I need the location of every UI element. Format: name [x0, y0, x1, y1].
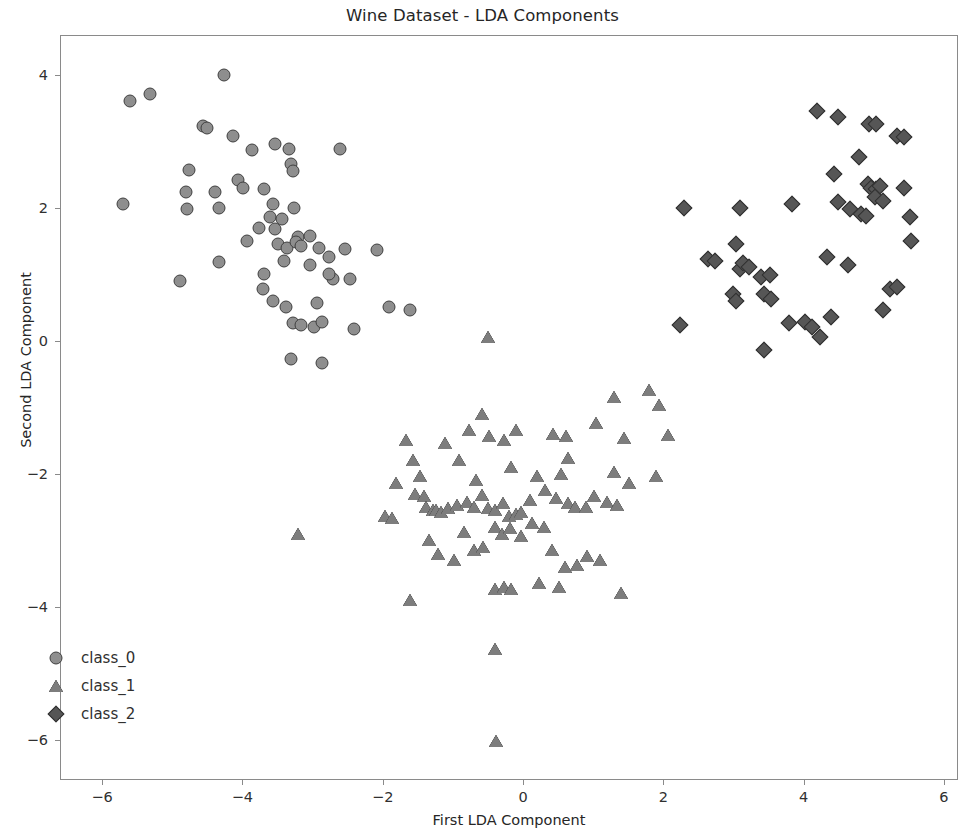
data-point-class_0 — [304, 229, 317, 242]
x-tick-label: 4 — [799, 789, 808, 805]
legend-item-class_2[interactable]: class_2 — [39, 700, 135, 728]
data-point-class_1 — [509, 424, 523, 436]
data-point-class_0 — [315, 316, 328, 329]
data-point-class_1 — [559, 430, 573, 442]
data-point-class_1 — [537, 521, 551, 533]
x-tick-mark — [944, 780, 945, 785]
data-point-class_1 — [476, 541, 490, 553]
data-point-class_1 — [497, 434, 511, 446]
data-point-class_0 — [181, 202, 194, 215]
x-tick-label: 6 — [939, 789, 948, 805]
data-point-class_0 — [240, 234, 253, 247]
data-point-class_0 — [212, 201, 225, 214]
data-point-class_1 — [642, 384, 656, 396]
x-tick-label: −6 — [91, 789, 112, 805]
x-axis-label: First LDA Component — [60, 812, 958, 828]
legend-item-label: class_0 — [73, 649, 135, 667]
data-point-class_1 — [452, 454, 466, 466]
y-tick-mark — [55, 474, 60, 475]
y-tick-mark — [55, 607, 60, 608]
data-point-class_0 — [266, 294, 279, 307]
data-point-class_0 — [283, 143, 296, 156]
data-point-class_1 — [561, 452, 575, 464]
x-tick-label: −4 — [232, 789, 253, 805]
data-point-class_0 — [257, 282, 270, 295]
y-tick-label: 2 — [8, 200, 48, 216]
data-point-class_0 — [212, 256, 225, 269]
legend-item-label: class_2 — [73, 705, 135, 723]
data-point-class_2 — [732, 199, 749, 216]
x-tick-label: 0 — [518, 789, 527, 805]
data-point-class_1 — [482, 430, 496, 442]
y-tick-mark — [55, 341, 60, 342]
data-point-class_0 — [404, 304, 417, 317]
x-tick-mark — [242, 780, 243, 785]
y-axis-label: Second LDA Component — [18, 230, 34, 490]
legend-item-label: class_1 — [73, 677, 135, 695]
data-point-class_1 — [489, 735, 503, 747]
data-point-class_1 — [406, 454, 420, 466]
data-point-class_1 — [514, 506, 528, 518]
y-tick-label: −4 — [8, 599, 48, 615]
data-point-class_2 — [896, 179, 913, 196]
data-point-class_1 — [488, 643, 502, 655]
data-point-class_1 — [649, 470, 663, 482]
data-point-class_0 — [209, 186, 222, 199]
data-point-class_1 — [607, 391, 621, 403]
data-point-class_2 — [875, 302, 892, 319]
data-point-class_0 — [286, 165, 299, 178]
plot-area — [60, 35, 958, 780]
data-point-class_0 — [285, 352, 298, 365]
x-tick-label: −2 — [372, 789, 393, 805]
data-point-class_1 — [438, 437, 452, 449]
data-point-class_1 — [545, 544, 559, 556]
data-point-class_0 — [304, 259, 317, 272]
data-point-class_1 — [481, 331, 495, 343]
data-point-class_2 — [840, 257, 857, 274]
data-point-class_1 — [504, 583, 518, 595]
data-point-class_2 — [781, 315, 798, 332]
data-point-class_0 — [278, 254, 291, 267]
data-point-class_1 — [607, 466, 621, 478]
legend-item-class_0[interactable]: class_0 — [39, 644, 135, 672]
data-point-class_1 — [589, 417, 603, 429]
y-tick-mark — [55, 75, 60, 76]
data-point-class_2 — [826, 166, 843, 183]
x-tick-label: 2 — [659, 789, 668, 805]
triangle-marker-icon — [39, 675, 73, 697]
circle-marker-icon — [39, 647, 73, 669]
data-point-class_0 — [294, 319, 307, 332]
legend-item-class_1[interactable]: class_1 — [39, 672, 135, 700]
data-point-class_1 — [554, 468, 568, 480]
data-point-class_1 — [514, 530, 528, 542]
data-point-class_1 — [403, 594, 417, 606]
data-point-class_0 — [383, 301, 396, 314]
y-tick-label: 4 — [8, 67, 48, 83]
data-point-class_0 — [266, 197, 279, 210]
data-point-class_0 — [116, 197, 129, 210]
data-point-class_1 — [469, 474, 483, 486]
data-point-class_0 — [344, 272, 357, 285]
data-point-class_1 — [530, 470, 544, 482]
y-tick-label: −6 — [8, 732, 48, 748]
data-point-class_2 — [755, 341, 772, 358]
data-point-class_1 — [593, 554, 607, 566]
data-point-class_2 — [784, 195, 801, 212]
data-point-class_1 — [291, 528, 305, 540]
data-point-class_2 — [851, 149, 868, 166]
x-tick-mark — [383, 780, 384, 785]
legend: class_0class_1class_2 — [33, 638, 145, 734]
y-tick-mark — [55, 740, 60, 741]
data-point-class_2 — [901, 208, 918, 225]
data-point-class_0 — [144, 87, 157, 100]
diamond-marker-icon — [39, 703, 73, 725]
data-point-class_0 — [339, 242, 352, 255]
data-point-class_0 — [182, 164, 195, 177]
data-point-class_1 — [431, 548, 445, 560]
x-tick-mark — [523, 780, 524, 785]
data-point-class_0 — [226, 129, 239, 142]
data-point-class_1 — [422, 534, 436, 546]
data-point-class_1 — [523, 494, 537, 506]
data-point-class_0 — [268, 137, 281, 150]
data-point-class_0 — [287, 201, 300, 214]
